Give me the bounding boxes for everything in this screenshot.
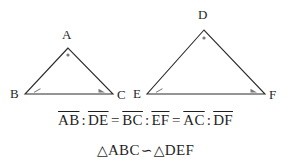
side-ratio-equation: AB:DE=BC:EF=AC:DF [0,112,291,129]
similar-triangles-figure: A B C D E F AB:DE=BC:EF=AC:DF △ABC∽△DEF [0,0,291,167]
segment-de: DE [87,112,109,128]
triangle-symbol-2: △ [154,143,165,158]
triangle-def [147,30,265,94]
angle-mark-e-icon [156,89,163,93]
angle-mark-c-icon [99,89,106,93]
angle-mark-f-icon [251,89,258,93]
vertex-label-d: D [198,8,207,21]
vertex-label-e: E [133,87,141,100]
similar-to-symbol: ∽ [140,143,154,158]
triangle-abc [25,48,113,94]
similarity-statement: △ABC∽△DEF [0,142,291,159]
angle-mark-b-icon [34,89,41,93]
vertex-label-b: B [10,87,19,100]
triangle-symbol-1: △ [97,143,108,158]
segment-bc: BC [122,112,144,128]
segment-ac: AC [183,112,205,128]
angle-mark-d-icon [202,36,205,39]
triangle-def-outline [147,30,265,94]
equals-sign-1: = [109,112,122,128]
ratio-colon-3: : [205,112,212,128]
segment-ef: EF [151,112,170,128]
segment-ab: AB [58,112,80,128]
triangle-abc-name: ABC [108,142,140,158]
ratio-colon-2: : [143,112,150,128]
angle-mark-a-icon [66,53,69,56]
equals-sign-2: = [170,112,183,128]
vertex-label-a: A [62,28,71,41]
vertex-label-f: F [269,88,276,101]
vertex-label-c: C [117,88,126,101]
segment-df: DF [213,112,234,128]
triangle-def-name: DEF [165,142,194,158]
